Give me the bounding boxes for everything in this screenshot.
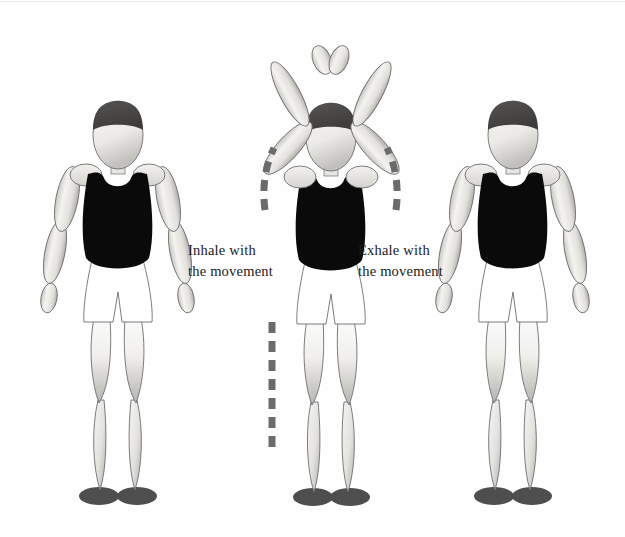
shoulder-right [346,166,378,188]
thigh-right [337,320,357,405]
calf-left [307,402,319,492]
caption-inhale: Inhale with the movement [188,240,273,282]
calf-right [129,400,141,490]
hand-right [176,282,197,314]
thigh-left [91,318,111,403]
figure-right [434,101,592,505]
caption-exhale: Exhale with the movement [358,240,443,282]
foot-right [512,487,552,505]
forearm-right [346,58,397,131]
foot-left [293,488,333,506]
calf-right [524,400,536,490]
shorts [479,260,547,322]
tank-top [478,173,548,269]
figures-artwork [0,0,625,537]
thigh-left [486,318,506,403]
thigh-right [519,318,539,403]
calf-left [94,400,106,490]
illustration-canvas: Inhale with the movement Exhale with the… [0,0,625,537]
foot-left [474,487,514,505]
shorts [84,260,152,322]
tank-top [83,173,153,269]
hand-right [571,282,592,314]
forearm-left [264,58,315,131]
shorts [297,262,365,324]
hand-left [39,282,60,314]
figure-left [39,101,197,505]
calf-left [489,400,501,490]
foot-right [330,488,370,506]
thigh-right [124,318,144,403]
tank-top [296,175,366,271]
shoulder-left [284,166,316,188]
foot-right [117,487,157,505]
calf-right [342,402,354,492]
thigh-left [304,320,324,405]
foot-left [79,487,119,505]
hand-left [434,282,455,314]
